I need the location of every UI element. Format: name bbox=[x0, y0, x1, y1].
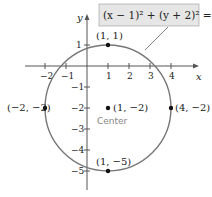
y-tick-label: −2 bbox=[71, 103, 84, 113]
point-right-label: (4, −2) bbox=[175, 102, 210, 113]
x-tick-label: 1 bbox=[106, 71, 112, 81]
y-tick-label: −1 bbox=[71, 82, 84, 92]
circle-graph: −2 −1 1 2 3 4 x 1 −1 −2 −3 −4 −5 y (x − … bbox=[0, 0, 212, 197]
y-tick-label: −5 bbox=[71, 166, 85, 176]
x-tick-label: −1 bbox=[61, 71, 74, 81]
point-right bbox=[169, 106, 173, 110]
point-bottom-label: (1, −5) bbox=[96, 156, 131, 167]
point-left-label: (−2, −2) bbox=[7, 102, 51, 113]
y-axis-arrow-icon bbox=[85, 14, 90, 20]
y-tick-label: −3 bbox=[71, 124, 85, 134]
y-tick-label: 1 bbox=[76, 40, 82, 50]
point-center bbox=[106, 106, 110, 110]
point-center-label: (1, −2) bbox=[113, 102, 148, 113]
center-label: Center bbox=[97, 116, 128, 126]
callout-line bbox=[145, 27, 168, 50]
y-tick-label: −4 bbox=[71, 145, 85, 155]
x-tick-label: 2 bbox=[127, 71, 133, 81]
equation-label: (x − 1)² + (y + 2)² = 9 bbox=[103, 9, 212, 21]
x-axis-arrow-icon bbox=[193, 64, 199, 69]
x-axis-label: x bbox=[196, 71, 202, 82]
y-axis-label: y bbox=[76, 12, 83, 23]
point-top-label: (1, 1) bbox=[96, 30, 123, 41]
x-tick-label: 4 bbox=[169, 71, 175, 81]
x-tick-label: 3 bbox=[148, 71, 154, 81]
point-top bbox=[106, 43, 110, 47]
point-bottom bbox=[106, 169, 110, 173]
